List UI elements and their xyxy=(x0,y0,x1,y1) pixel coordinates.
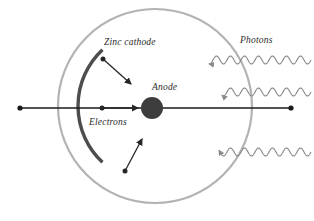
anode-label: Anode xyxy=(152,83,177,93)
electron-upper-arrow xyxy=(103,59,131,84)
zinc-cathode-arc xyxy=(78,50,102,163)
diagram-canvas xyxy=(0,0,314,221)
zinc-cathode-label: Zinc cathode xyxy=(104,38,156,48)
terminal-right-dot xyxy=(288,105,293,110)
anode-disc xyxy=(141,97,163,119)
electron-arrows-group xyxy=(100,57,143,174)
electron-lower-arrow xyxy=(125,139,142,171)
photon-lower-wave xyxy=(219,148,311,156)
terminal-left-dot xyxy=(17,105,22,110)
electron-center-dot xyxy=(100,106,105,111)
photoelectric-effect-diagram: Zinc cathode Anode Electrons Photons xyxy=(0,0,314,221)
photon-upper-wave xyxy=(209,56,311,64)
photon-middle-wave xyxy=(222,88,311,96)
electron-upper-dot xyxy=(101,57,106,62)
photon-waves-group xyxy=(209,56,311,156)
electrons-label: Electrons xyxy=(89,118,127,128)
photons-label: Photons xyxy=(240,36,273,46)
electron-lower-dot xyxy=(123,169,128,174)
